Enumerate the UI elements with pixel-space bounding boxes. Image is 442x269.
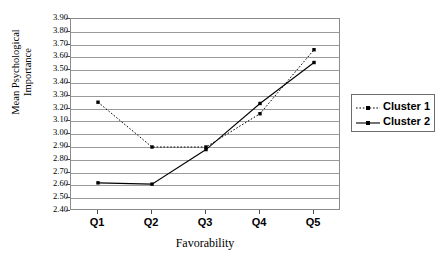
y-axis-tick-label: 3.70 [40, 39, 68, 48]
y-axis-tick-labels: 3.903.803.703.603.503.403.303.203.103.00… [40, 0, 68, 269]
y-axis-tick-mark [66, 184, 70, 185]
y-axis-tick-mark [66, 56, 70, 57]
y-axis-tick-label: 3.30 [40, 90, 68, 99]
x-axis-tick-label: Q5 [293, 216, 333, 228]
data-point-marker [258, 112, 261, 115]
data-point-marker [96, 181, 99, 184]
y-axis-tick-label: 3.20 [40, 103, 68, 112]
series-2 [96, 61, 315, 186]
data-point-marker [312, 48, 315, 51]
y-axis-tick-label: 3.60 [40, 51, 68, 60]
plot-area [70, 18, 340, 210]
data-point-marker [204, 148, 207, 151]
y-axis-tick-mark [66, 44, 70, 45]
y-axis-tick-mark [66, 210, 70, 211]
y-axis-tick-label: 2.40 [40, 205, 68, 214]
x-axis-tick-mark [151, 210, 152, 214]
legend-marker-icon [355, 115, 381, 127]
x-axis-tick-mark [259, 210, 260, 214]
x-axis-tick-label: Q1 [77, 216, 117, 228]
y-axis-tick-mark [66, 108, 70, 109]
y-axis-tick-mark [66, 82, 70, 83]
legend-label: Cluster 2 [381, 115, 430, 127]
series-line [98, 50, 314, 147]
chart-container: Mean Psychological Importance 3.903.803.… [0, 0, 442, 269]
y-axis-tick-label: 3.90 [40, 13, 68, 22]
legend-item-1[interactable]: Cluster 1 [355, 98, 430, 113]
y-axis-tick-label: 2.90 [40, 141, 68, 150]
series-1 [96, 48, 315, 149]
y-axis-tick-label: 3.80 [40, 26, 68, 35]
y-axis-tick-label: 3.10 [40, 115, 68, 124]
y-axis-tick-mark [66, 31, 70, 32]
y-axis-tick-mark [66, 146, 70, 147]
x-axis-title: Favorability [70, 236, 340, 251]
y-axis-tick-mark [66, 69, 70, 70]
y-axis-tick-label: 2.80 [40, 154, 68, 163]
legend-label: Cluster 1 [381, 100, 430, 112]
data-point-marker [312, 61, 315, 64]
data-point-marker [150, 182, 153, 185]
x-axis-tick-label: Q3 [185, 216, 225, 228]
y-axis-tick-mark [66, 95, 70, 96]
chart-legend: Cluster 1Cluster 2 [351, 94, 435, 132]
y-axis-tick-mark [66, 133, 70, 134]
data-point-marker [96, 101, 99, 104]
y-axis-tick-mark [66, 197, 70, 198]
y-axis-tick-mark [66, 18, 70, 19]
y-axis-tick-mark [66, 159, 70, 160]
y-axis-tick-mark [66, 120, 70, 121]
x-axis-tick-mark [205, 210, 206, 214]
y-axis-tick-label: 3.40 [40, 77, 68, 86]
data-point-marker [150, 145, 153, 148]
x-axis-tick-mark [313, 210, 314, 214]
series-line [98, 63, 314, 185]
legend-marker-icon [355, 100, 381, 112]
x-axis-tick-mark [97, 210, 98, 214]
series-layer [71, 19, 341, 211]
x-axis-tick-label: Q4 [239, 216, 279, 228]
y-axis-tick-label: 2.70 [40, 167, 68, 176]
x-axis-tick-label: Q2 [131, 216, 171, 228]
y-axis-tick-label: 3.50 [40, 64, 68, 73]
y-axis-tick-mark [66, 172, 70, 173]
y-axis-tick-label: 2.50 [40, 192, 68, 201]
y-axis-tick-label: 3.00 [40, 128, 68, 137]
data-point-marker [258, 102, 261, 105]
legend-item-2[interactable]: Cluster 2 [355, 113, 430, 128]
y-axis-tick-label: 2.60 [40, 179, 68, 188]
